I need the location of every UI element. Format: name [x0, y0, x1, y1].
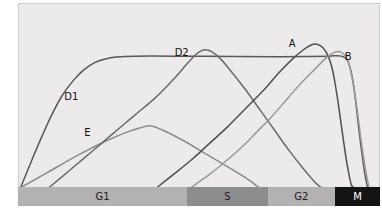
phase-label-s: S [224, 192, 230, 202]
phase-segment-m: M [335, 187, 380, 206]
curve-label-d1: D1 [64, 92, 78, 102]
phase-segment-g2: G2 [268, 187, 335, 206]
cyclin-levels-chart: Relative amounts of cyclins D1ED2AB G1SG… [0, 0, 382, 211]
curve-a [158, 44, 353, 187]
curve-label-e: E [84, 128, 90, 138]
phase-segment-s: S [187, 187, 268, 206]
curve-label-b: B [345, 52, 352, 62]
plot-area: D1ED2AB [18, 3, 380, 188]
phase-label-m: M [353, 192, 362, 202]
curve-label-d2: D2 [175, 48, 189, 58]
cell-cycle-phase-bar: G1SG2M [18, 187, 380, 206]
phase-label-g1: G1 [95, 192, 109, 202]
phase-segment-g1: G1 [18, 187, 187, 206]
curve-d2 [50, 50, 321, 187]
phase-label-g2: G2 [294, 192, 308, 202]
curve-e [22, 126, 259, 187]
curve-label-a: A [289, 39, 296, 49]
